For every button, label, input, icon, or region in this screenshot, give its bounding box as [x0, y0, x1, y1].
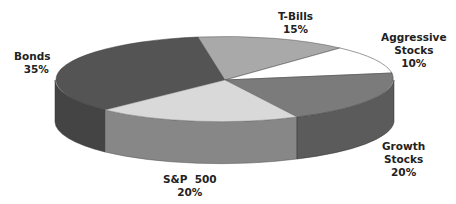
label-growth-name2: Stocks: [382, 153, 425, 166]
label-sp500: S&P 500 20%: [163, 173, 217, 199]
label-growth-name1: Growth: [382, 140, 425, 153]
label-tbills-pct: 15%: [278, 23, 313, 36]
label-aggressive: Aggressive Stocks 10%: [381, 31, 447, 70]
label-sp500-name: S&P 500: [163, 173, 217, 186]
label-growth-pct: 20%: [382, 166, 425, 179]
label-aggressive-name1: Aggressive: [381, 31, 447, 44]
label-bonds-pct: 35%: [14, 63, 50, 76]
label-tbills-name: T-Bills: [278, 10, 313, 23]
label-aggressive-name2: Stocks: [381, 44, 447, 57]
label-bonds-name: Bonds: [14, 50, 50, 63]
label-tbills: T-Bills 15%: [278, 10, 313, 36]
label-growth: Growth Stocks 20%: [382, 140, 425, 179]
label-bonds: Bonds 35%: [14, 50, 50, 76]
label-aggressive-pct: 10%: [381, 57, 447, 70]
label-sp500-pct: 20%: [163, 186, 217, 199]
